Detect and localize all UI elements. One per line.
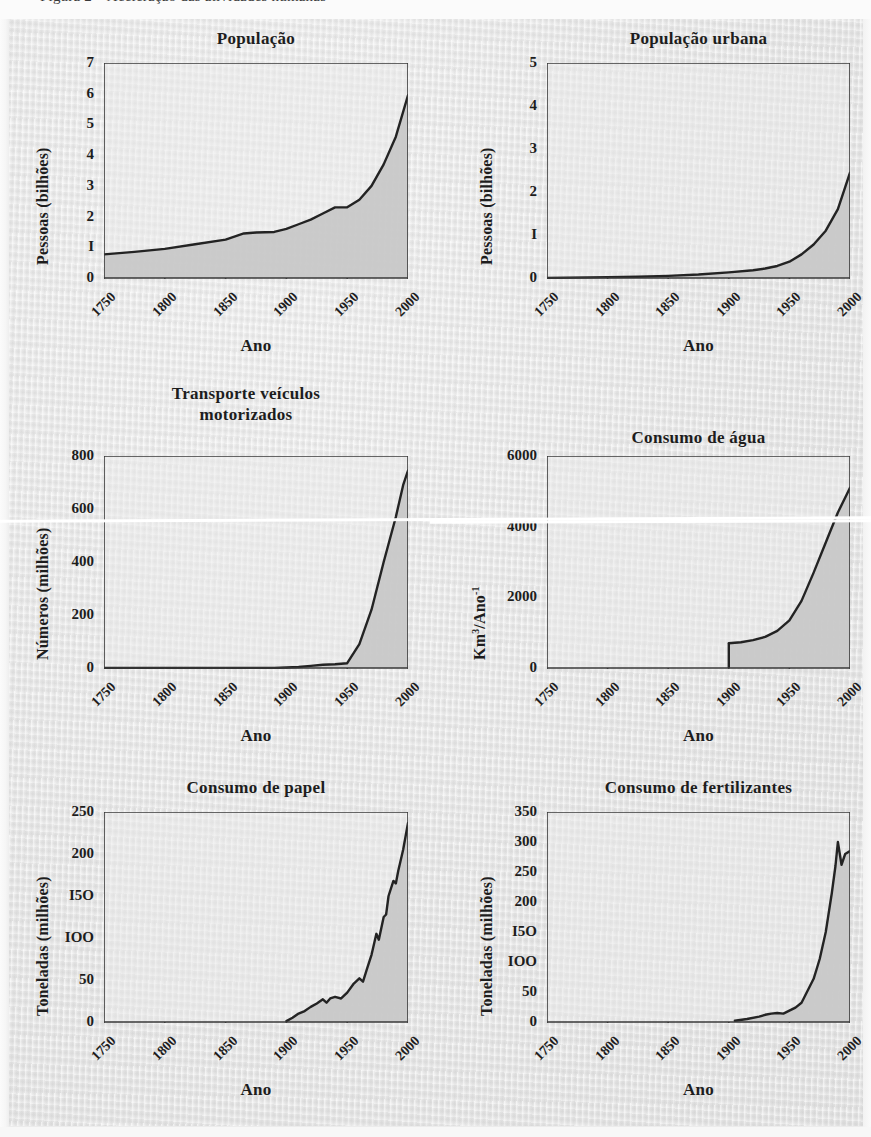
clipped-caption-fragment: Figura 2 – Aceleração das atividades hum… [40,0,326,5]
left-scan-margin [0,0,9,1137]
chart-title: População urbana [547,28,850,49]
chart-title: Transporte veículos motorizados [84,383,408,425]
bottom-scan-margin [0,1127,871,1137]
y-tick-label: 2 [38,208,94,225]
chart-title: Consumo de fertilizantes [547,777,850,798]
y-tick-label: 200 [38,606,94,623]
y-tick-label: 250 [481,863,537,880]
right-scan-margin [863,0,871,1137]
y-axis-label: Números (milhões) [34,528,52,660]
y-tick-label: 50 [38,971,94,988]
y-tick-label: 3 [38,177,94,194]
y-tick-label: 0 [481,1013,537,1030]
y-axis-label: Pessoas (bilhões) [478,147,496,265]
y-tick-label: 6000 [481,447,537,464]
x-axis-label: Ano [547,1080,850,1100]
y-tick-label: I5O [481,923,537,940]
x-axis-label: Ano [547,726,850,746]
plot-area [104,63,408,279]
y-tick-label: 400 [38,553,94,570]
y-tick-label: 2000 [481,588,537,605]
y-tick-label: 5 [481,54,537,71]
plot-area [104,812,408,1023]
y-tick-label: 0 [38,1013,94,1030]
y-tick-label: 4000 [481,518,537,535]
y-tick-label: 2 [481,183,537,200]
y-tick-label: 0 [481,659,537,676]
x-axis-label: Ano [104,726,408,746]
y-tick-label: I [38,238,94,255]
y-tick-label: 4 [481,97,537,114]
y-tick-label: 5 [38,115,94,132]
x-axis-label: Ano [547,336,850,356]
y-tick-label: 200 [481,893,537,910]
y-tick-label: 600 [38,500,94,517]
y-tick-label: 3 [481,140,537,157]
y-tick-label: 0 [481,269,537,286]
y-tick-label: 300 [481,833,537,850]
y-tick-label: 4 [38,146,94,163]
plot-area [547,456,850,669]
y-tick-label: 200 [38,845,94,862]
plot-area [547,63,850,279]
y-tick-label: 7 [38,54,94,71]
y-tick-label: IOO [481,953,537,970]
y-tick-label: 50 [481,983,537,1000]
chart-title: Consumo de água [547,427,850,448]
y-tick-label: 350 [481,803,537,820]
x-axis-label: Ano [104,1080,408,1100]
x-axis-label: Ano [104,336,408,356]
y-tick-label: I5O [38,887,94,904]
y-tick-label: 6 [38,85,94,102]
plot-area [104,456,408,669]
y-tick-label: 800 [38,447,94,464]
y-tick-label: IOO [38,929,94,946]
chart-title: População [104,28,408,49]
y-tick-label: 250 [38,803,94,820]
y-tick-label: 0 [38,269,94,286]
y-tick-label: 0 [38,659,94,676]
figure-page: Figura 2 – Aceleração das atividades hum… [0,0,871,1137]
y-tick-label: I [481,226,537,243]
chart-title: Consumo de papel [104,777,408,798]
plot-area [547,812,850,1023]
